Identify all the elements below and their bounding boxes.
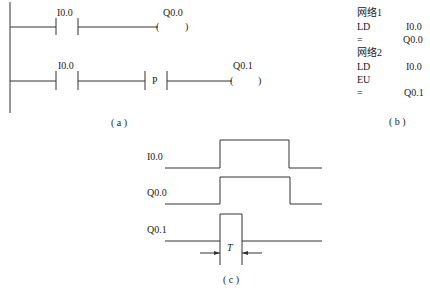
rung2-coil-close: )	[258, 75, 261, 87]
stl-op: =	[357, 87, 363, 99]
arrow-left-icon	[242, 251, 248, 255]
stl-arg: I0.0	[406, 61, 422, 73]
rung1-contact-label: I0.0	[57, 7, 73, 19]
stl-arg: I0.0	[406, 21, 422, 33]
waveform-i00	[165, 140, 322, 168]
caption-b: ( b )	[389, 116, 406, 128]
caption-c: ( c )	[223, 274, 239, 286]
stl-arg: Q0.1	[404, 87, 424, 99]
waveform-q01	[165, 214, 322, 241]
pulse-width-label: T	[227, 242, 233, 254]
signal-label-q01: Q0.1	[147, 224, 167, 236]
stl-op: LD	[357, 21, 370, 33]
stl-op: 网络1	[357, 7, 382, 19]
rung2-coil-open: (	[230, 75, 233, 87]
signal-label-q00: Q0.0	[147, 187, 167, 199]
rung1-coil-close: )	[185, 21, 188, 33]
diagram-lines	[0, 0, 430, 298]
stl-op: EU	[357, 74, 370, 86]
waveform-q00	[165, 177, 322, 204]
stl-op: 网络2	[357, 47, 382, 59]
stl-op: =	[357, 34, 363, 46]
stl-op: LD	[357, 61, 370, 73]
caption-a: ( a )	[111, 117, 127, 129]
rung2-edge-label: P	[152, 75, 158, 87]
arrow-right-icon	[214, 251, 220, 255]
rung2-coil-label: Q0.1	[233, 60, 253, 72]
signal-label-i00: I0.0	[147, 151, 163, 163]
stl-arg: Q0.0	[403, 34, 423, 46]
rung2-contact-label: I0.0	[58, 60, 74, 72]
rung1-coil-label: Q0.0	[163, 7, 183, 19]
rung1-coil-open: (	[156, 21, 159, 33]
